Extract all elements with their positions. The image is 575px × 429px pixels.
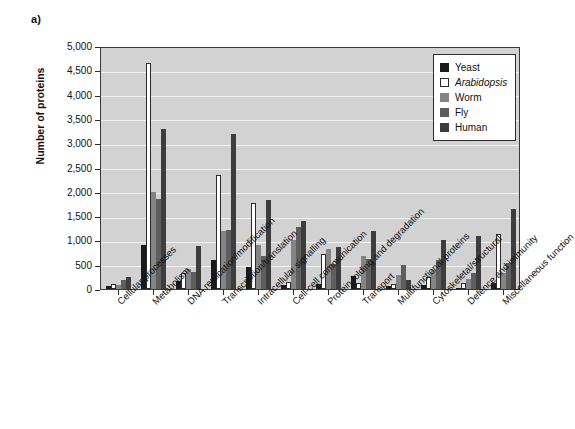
- y-axis-tick-label: 1,000: [30, 236, 92, 246]
- y-axis-tick-label: 3,000: [30, 139, 92, 149]
- legend-swatch-icon: [440, 108, 449, 117]
- legend-label: Human: [455, 123, 487, 133]
- y-axis-tick-label: 4,000: [30, 91, 92, 101]
- legend-swatch-icon: [440, 78, 449, 87]
- y-axis-tick: [95, 290, 100, 291]
- legend-swatch-icon: [440, 123, 449, 132]
- y-axis-tick-label: 4,500: [30, 66, 92, 76]
- y-axis-tick-label: 2,500: [30, 164, 92, 174]
- y-axis-tick-label: 500: [30, 261, 92, 271]
- legend-label: Fly: [455, 108, 468, 118]
- y-axis-tick-label: 1,500: [30, 212, 92, 222]
- y-axis-tick-label: 5,000: [30, 42, 92, 52]
- legend-item: Human: [440, 120, 507, 135]
- legend-item: Yeast: [440, 60, 507, 75]
- legend: YeastArabidopsisWormFlyHuman: [433, 54, 516, 141]
- legend-swatch-icon: [440, 93, 449, 102]
- legend-label: Arabidopsis: [455, 78, 507, 88]
- bar: [266, 200, 271, 289]
- legend-label: Worm: [455, 93, 481, 103]
- bar-group: [101, 48, 136, 289]
- legend-item: Worm: [440, 90, 507, 105]
- legend-item: Fly: [440, 105, 507, 120]
- y-axis-tick-label: 0: [30, 285, 92, 295]
- legend-label: Yeast: [455, 63, 480, 73]
- legend-item: Arabidopsis: [440, 75, 507, 90]
- legend-swatch-icon: [440, 63, 449, 72]
- y-axis-tick-label: 2,000: [30, 188, 92, 198]
- y-axis-tick-label: 3,500: [30, 115, 92, 125]
